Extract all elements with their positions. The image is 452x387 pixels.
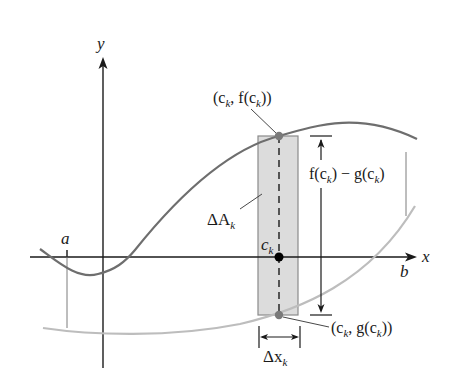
b-label: b xyxy=(400,262,409,281)
leader-f-point xyxy=(251,109,277,134)
height-label: f(ck) − g(ck) xyxy=(309,165,385,185)
point-ck xyxy=(275,253,284,262)
f-curve xyxy=(40,123,417,276)
point-g-ck xyxy=(275,311,283,319)
approximating-rectangle xyxy=(258,136,298,315)
width-label: Δxk xyxy=(263,347,288,368)
area-label: ΔAk xyxy=(207,210,236,231)
y-axis-label: y xyxy=(95,34,105,53)
point-g-label: (ck, g(ck)) xyxy=(331,319,392,339)
point-f-label: (ck, f(ck)) xyxy=(213,89,272,109)
area-between-curves-diagram: y x a b (ck, f(ck)) f(ck) − g(ck) ΔAk ck… xyxy=(0,0,452,387)
a-label: a xyxy=(61,229,70,248)
x-axis-label: x xyxy=(421,247,430,266)
point-f-ck xyxy=(275,132,283,140)
leader-g-point xyxy=(283,317,329,327)
